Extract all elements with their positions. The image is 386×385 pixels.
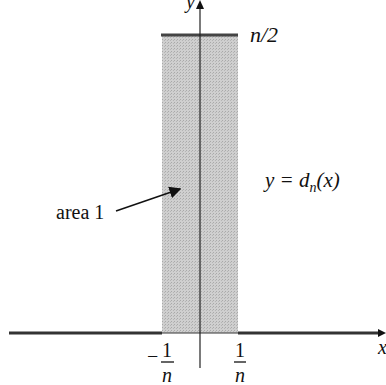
y-axis-label: y <box>184 0 195 13</box>
right-tick-numerator: 1 <box>235 339 245 361</box>
function-label-suffix: (x) <box>317 168 340 192</box>
function-label-prefix: y = d <box>263 168 310 192</box>
area-label: area 1 <box>56 201 104 223</box>
left-tick-sign: − <box>147 345 158 367</box>
left-tick-denominator: n <box>162 364 172 385</box>
height-label: n/2 <box>250 22 278 47</box>
x-axis-label: x <box>377 336 386 358</box>
left-tick-numerator: 1 <box>162 339 172 361</box>
y-axis-arrow-icon <box>196 0 204 9</box>
function-label: y = dn(x) <box>263 168 340 195</box>
right-tick-denominator: n <box>235 364 245 385</box>
diagram-canvas: y x n/2 − 1 n 1 n area 1 y = dn(x) <box>0 0 386 385</box>
function-label-subscript: n <box>310 180 317 195</box>
